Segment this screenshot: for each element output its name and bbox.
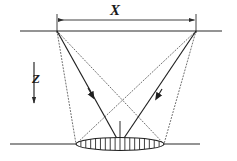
dotted-ray-right-to-far-edge: [76, 31, 196, 144]
hatched-ellipse-target: [76, 138, 164, 151]
dotted-ray-right-outer: [164, 31, 196, 144]
z-axis-label: Z: [32, 72, 40, 85]
solid-ray-left-arrowhead: [88, 88, 93, 96]
solid-ray-right-arrowhead: [157, 89, 162, 97]
solid-ray-right-to-center: [120, 31, 196, 144]
x-dimension-label: X: [110, 3, 120, 18]
figure-canvas: X Z: [0, 0, 237, 161]
